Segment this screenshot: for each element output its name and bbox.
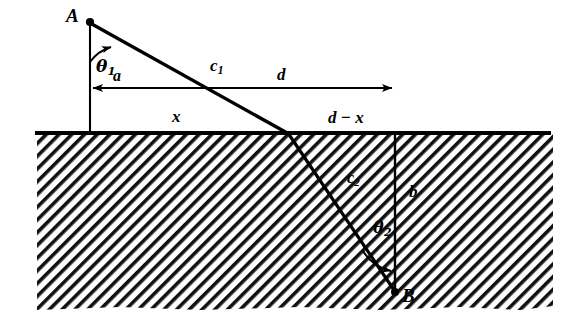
label-segment-a: a	[113, 68, 121, 84]
label-c2-subscript: 2	[354, 176, 359, 188]
label-theta2-base: θ	[373, 218, 384, 237]
label-c1: c1	[210, 57, 224, 77]
point-marker-a	[86, 18, 94, 26]
label-theta2-subscript: 2	[384, 226, 392, 239]
label-c1-subscript: 1	[218, 64, 224, 77]
label-point-b: B	[402, 286, 415, 305]
label-segment-x: x	[172, 108, 181, 125]
refraction-diagram: A B θ1 θ2 c1 c2 a d b x d − x	[0, 0, 574, 332]
point-marker-b	[391, 288, 399, 296]
label-c2: c2	[347, 170, 360, 188]
lower-medium-hatch	[30, 130, 560, 315]
diagram-canvas	[0, 0, 574, 332]
label-segment-b: b	[409, 183, 418, 200]
label-theta2: θ2	[373, 220, 391, 239]
label-segment-d: d	[277, 66, 286, 83]
label-segment-d-minus-x: d − x	[328, 109, 364, 126]
label-point-a: A	[66, 6, 79, 25]
label-theta1-base: θ	[96, 56, 107, 76]
label-c1-base: c	[210, 56, 218, 75]
